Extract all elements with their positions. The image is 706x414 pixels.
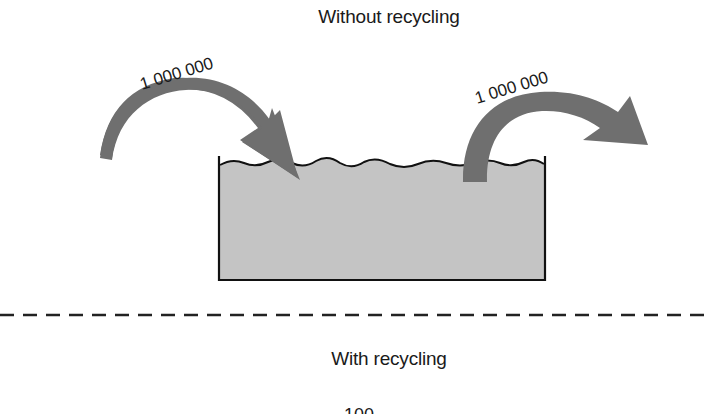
tank bbox=[219, 156, 545, 280]
section-title-with-recycling: With recycling bbox=[36, 348, 706, 370]
tank-liquid bbox=[220, 158, 544, 279]
partial-flow-label: 100 bbox=[344, 402, 374, 414]
